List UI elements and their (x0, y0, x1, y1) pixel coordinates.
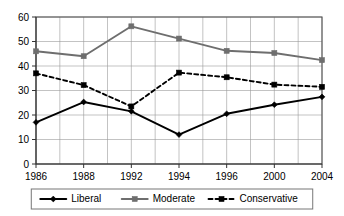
series-marker (129, 104, 134, 109)
xtick-label-layer: 1986198819921994199620002004 (25, 171, 334, 182)
series-marker (81, 99, 87, 105)
legend-marker (219, 197, 224, 202)
series-marker (81, 54, 86, 59)
series-marker (272, 82, 277, 87)
x-tick-label: 2004 (311, 171, 334, 182)
x-tick-label: 1992 (120, 171, 143, 182)
legend-label: Liberal (71, 193, 101, 204)
series-marker (224, 111, 230, 117)
x-tick-label: 1988 (73, 171, 96, 182)
y-tick-label: 50 (18, 36, 30, 47)
chart-canvas: 0102030405060 19861988199219941996200020… (0, 0, 344, 216)
series-marker (224, 48, 229, 53)
legend-label: Moderate (153, 193, 196, 204)
y-tick-label: 60 (18, 12, 30, 23)
series-marker (81, 83, 86, 88)
x-tick-label: 1986 (25, 171, 48, 182)
series-marker (177, 36, 182, 41)
series-marker (320, 84, 325, 89)
series-marker (177, 70, 182, 75)
ytick-label-layer: 0102030405060 (18, 12, 30, 170)
y-tick-label: 30 (18, 85, 30, 96)
y-tick-label: 0 (23, 159, 29, 170)
series-marker (34, 71, 39, 76)
legend-marker (132, 197, 137, 202)
legend-label: Conservative (240, 193, 299, 204)
x-tick-label: 2000 (263, 171, 286, 182)
x-tick-label: 1996 (216, 171, 239, 182)
series-marker (319, 94, 325, 100)
y-tick-label: 40 (18, 61, 30, 72)
series-marker (129, 24, 134, 29)
series-marker (34, 49, 39, 54)
series-marker (271, 102, 277, 108)
y-tick-label: 20 (18, 110, 30, 121)
series-marker (272, 51, 277, 56)
y-tick-label: 10 (18, 134, 30, 145)
legend-layer: LiberalModerateConservative (31, 189, 312, 209)
series-marker (33, 119, 39, 125)
series-marker (224, 75, 229, 80)
x-tick-label: 1994 (168, 171, 191, 182)
series-marker (320, 58, 325, 63)
line-chart: 0102030405060 19861988199219941996200020… (0, 0, 344, 216)
